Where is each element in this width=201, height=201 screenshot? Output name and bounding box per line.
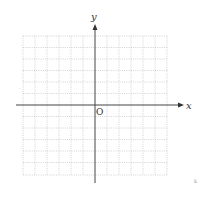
- origin-label: O: [96, 107, 103, 117]
- stray-mark: ·: [19, 85, 21, 91]
- coordinate-plane: x y O · k: [0, 0, 201, 201]
- y-axis-label: y: [90, 11, 97, 22]
- x-axis-arrow-icon: [178, 103, 184, 108]
- stray-mark: k: [194, 178, 198, 184]
- y-axis: [93, 24, 98, 183]
- x-axis-label: x: [186, 100, 192, 111]
- y-axis-arrow-icon: [93, 24, 98, 30]
